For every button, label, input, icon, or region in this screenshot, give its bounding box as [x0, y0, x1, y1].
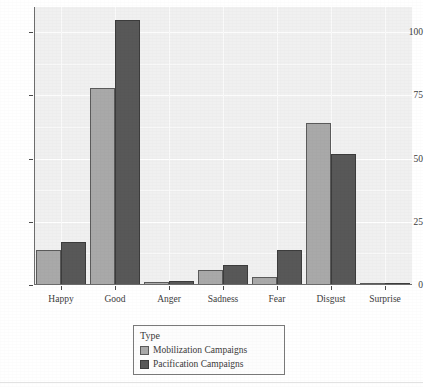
- gridline-x-anger: [169, 7, 170, 285]
- x-tick-mark-fear: [277, 286, 278, 290]
- x-tick-mark-disgust: [331, 286, 332, 290]
- legend-label-mobilization: Mobilization Campaigns: [153, 344, 247, 356]
- y-tick-mark-100: [29, 32, 33, 33]
- bar-anger-pacification: [169, 281, 194, 285]
- x-tick-label-surprise: Surprise: [345, 293, 425, 305]
- bar-fear-mobilization: [252, 277, 277, 285]
- bar-happy-mobilization: [36, 250, 61, 285]
- y-tick-mark-25: [29, 222, 33, 223]
- bar-surprise-mobilization: [360, 283, 385, 285]
- bar-happy-pacification: [61, 242, 86, 285]
- y-tick-label-100: 100: [397, 27, 423, 37]
- bar-sadness-mobilization: [198, 270, 223, 285]
- y-tick-label-75: 75: [397, 90, 423, 100]
- legend-swatch-pacification-icon: [140, 360, 149, 369]
- y-tick-label-0: 0: [397, 280, 423, 290]
- gridline-x-fear: [277, 7, 278, 285]
- bar-good-pacification: [115, 20, 140, 285]
- x-tick-mark-surprise: [385, 286, 386, 290]
- bar-fear-pacification: [277, 250, 302, 285]
- x-tick-mark-happy: [61, 286, 62, 290]
- bar-sadness-pacification: [223, 265, 248, 285]
- x-tick-mark-good: [115, 286, 116, 290]
- legend-entry-pacification[interactable]: Pacification Campaigns: [140, 358, 278, 370]
- y-tick-label-25: 25: [397, 217, 423, 227]
- page-bottom-edge: [0, 382, 423, 383]
- gridline-x-surprise: [385, 7, 386, 285]
- y-tick-mark-0: [29, 285, 33, 286]
- legend-label-pacification: Pacification Campaigns: [153, 358, 244, 370]
- legend-entry-mobilization[interactable]: Mobilization Campaigns: [140, 344, 278, 356]
- legend-title: Type: [140, 329, 278, 342]
- x-tick-mark-anger: [169, 286, 170, 290]
- bar-good-mobilization: [90, 88, 115, 285]
- y-tick-mark-75: [29, 95, 33, 96]
- bar-anger-mobilization: [144, 282, 169, 285]
- y-tick-mark-50: [29, 159, 33, 160]
- x-tick-mark-sadness: [223, 286, 224, 290]
- legend-swatch-mobilization-icon: [140, 346, 149, 355]
- y-tick-label-50: 50: [397, 154, 423, 164]
- bar-disgust-pacification: [331, 154, 356, 285]
- bar-disgust-mobilization: [306, 123, 331, 285]
- gridline-x-sadness: [223, 7, 224, 285]
- legend: Type Mobilization Campaigns Pacification…: [133, 325, 285, 375]
